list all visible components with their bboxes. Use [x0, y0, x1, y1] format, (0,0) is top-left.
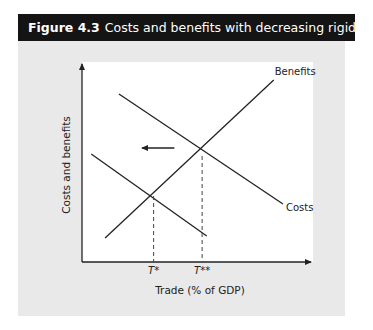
x-tick-label-Tstarstar: T**: [194, 265, 210, 276]
chart: BenefitsCosts T*T** Trade (% of GDP) Cos…: [0, 0, 373, 330]
series-label-costs: Costs: [286, 202, 313, 213]
y-axis-label: Costs and benefits: [60, 116, 72, 214]
x-axis-label: Trade (% of GDP): [154, 284, 245, 296]
plot-area: [82, 62, 313, 262]
series-label-benefits: Benefits: [275, 66, 316, 77]
x-tick-label-Tstar: T*: [148, 265, 159, 276]
